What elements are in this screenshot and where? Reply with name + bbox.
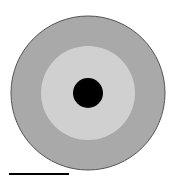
center-dot [73, 78, 103, 108]
concentric-circles-diagram [0, 0, 178, 176]
